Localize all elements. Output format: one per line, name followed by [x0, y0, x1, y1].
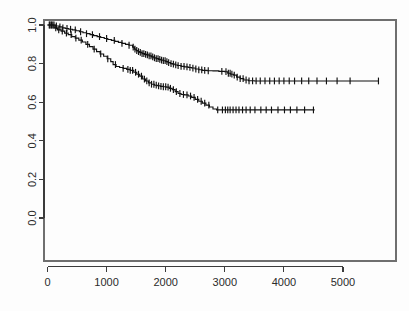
censoring-marks — [49, 22, 378, 114]
x-tick-label-0: 0 — [44, 276, 50, 288]
y-tick-label-0.4: 0.4 — [26, 133, 38, 148]
x-tick-label-5000: 5000 — [331, 276, 355, 288]
x-tick-label-4000: 4000 — [272, 276, 296, 288]
plot-frame — [44, 20, 396, 261]
x-tick-label-3000: 3000 — [213, 276, 237, 288]
y-tick-label-0.8: 0.8 — [26, 56, 38, 71]
x-tick-label-1000: 1000 — [94, 276, 118, 288]
plot-canvas: 010002000300040005000 0.00.20.40.60.81.0 — [0, 0, 409, 311]
km-curve-upper-curve — [48, 25, 379, 81]
y-tick-labels: 0.00.20.40.60.81.0 — [26, 17, 38, 225]
survival-curves — [48, 25, 379, 110]
x-tick-label-2000: 2000 — [153, 276, 177, 288]
y-tick-label-0.0: 0.0 — [26, 210, 38, 225]
y-axis — [39, 25, 45, 218]
y-tick-label-1.0: 1.0 — [26, 17, 38, 32]
x-axis — [48, 267, 344, 273]
y-tick-label-0.6: 0.6 — [26, 95, 38, 110]
x-tick-labels: 010002000300040005000 — [44, 276, 355, 288]
plot-border — [44, 20, 396, 261]
km-survival-figure: 010002000300040005000 0.00.20.40.60.81.0 — [0, 0, 409, 311]
y-tick-label-0.2: 0.2 — [26, 172, 38, 187]
